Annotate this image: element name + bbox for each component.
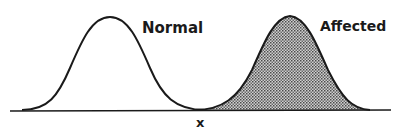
affected-label: Affected [320, 18, 386, 34]
normal-label: Normal [142, 19, 203, 37]
baseline-axis [10, 110, 391, 111]
threshold-label: x [196, 115, 205, 130]
distribution-diagram: Normal Affected x [0, 0, 399, 135]
